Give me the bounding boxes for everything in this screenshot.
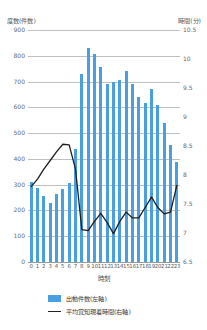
right-axis-tick-label: 10: [183, 56, 191, 62]
left-axis-tick-label: 300: [14, 182, 25, 188]
legend-item-bars: 出動件数(左軸): [0, 292, 207, 305]
right-axis-tick-label: 10.5: [183, 27, 196, 33]
right-axis-tick-label: 6.5: [183, 259, 193, 265]
left-axis-tick-label: 200: [14, 207, 25, 213]
chart-container: 度数(件数) 時間(分) 010020030040050060070080090…: [0, 0, 207, 330]
legend-label-line: 平均覚知現着時間(右軸): [66, 307, 131, 316]
left-axis-tick-label: 700: [14, 79, 25, 85]
plot-area: 0100200300400500600700800900 6.577.588.5…: [28, 30, 180, 262]
bar-swatch-icon: [48, 295, 61, 302]
line-path: [31, 144, 177, 233]
left-axis-tick-label: 100: [14, 233, 25, 239]
right-axis-tick-label: 8.5: [183, 143, 193, 149]
right-axis-tick-label: 7: [183, 230, 187, 236]
left-axis-tick-label: 900: [14, 27, 25, 33]
left-axis-tick-label: 600: [14, 104, 25, 110]
x-axis-tick-label: 23: [174, 263, 180, 270]
x-axis-title: 時刻: [0, 274, 207, 283]
legend-label-bars: 出動件数(左軸): [66, 294, 107, 303]
right-axis-title: 時間(分): [178, 16, 201, 25]
legend-item-line: 平均覚知現着時間(右軸): [0, 305, 207, 318]
line-series: [28, 30, 180, 262]
chart-legend: 出動件数(左軸) 平均覚知現着時間(右軸): [0, 292, 207, 318]
left-axis-tick-label: 800: [14, 53, 25, 59]
left-axis-title: 度数(件数): [7, 16, 36, 25]
right-axis-tick-label: 9.5: [183, 85, 193, 91]
left-axis-tick-label: 0: [21, 259, 25, 265]
right-axis-tick-label: 9: [183, 114, 187, 120]
right-axis-tick-label: 8: [183, 172, 187, 178]
left-axis-tick-label: 500: [14, 130, 25, 136]
line-swatch-icon: [48, 311, 61, 312]
left-axis-tick-label: 400: [14, 156, 25, 162]
right-axis-tick-label: 7.5: [183, 201, 193, 207]
x-axis-ticks: 01234567891011121314151617181920212223: [28, 263, 180, 273]
